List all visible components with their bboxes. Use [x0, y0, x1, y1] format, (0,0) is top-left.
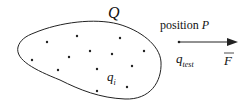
point-charge-dot — [131, 65, 133, 67]
point-charge-dot — [96, 90, 98, 92]
point-charge-dot — [89, 50, 91, 52]
point-charge-dot — [57, 69, 59, 71]
position-word: position — [160, 18, 199, 32]
position-symbol: P — [202, 18, 209, 32]
point-charge-dot — [111, 53, 113, 55]
charge-label-subscript: i — [114, 78, 116, 87]
point-charge-dot — [31, 59, 33, 61]
charge-label-qi: qi — [107, 69, 116, 87]
point-charge-dot — [96, 68, 98, 70]
point-charge-dot — [46, 41, 48, 43]
point-charge-dot — [143, 50, 145, 52]
test-charge-label: qtest — [176, 51, 194, 69]
point-charge-dot — [76, 35, 78, 37]
force-arrow-head — [227, 38, 238, 46]
test-charge-subscript: test — [183, 60, 194, 69]
position-label: position P — [160, 18, 209, 33]
point-charges — [31, 35, 145, 92]
region-label-q: Q — [108, 4, 120, 22]
point-charge-dot — [68, 56, 70, 58]
charge-region-outline — [18, 21, 161, 99]
diagram-canvas — [0, 0, 250, 111]
point-charge-dot — [126, 86, 128, 88]
point-charge-dot — [119, 37, 121, 39]
force-label: F — [224, 53, 232, 69]
